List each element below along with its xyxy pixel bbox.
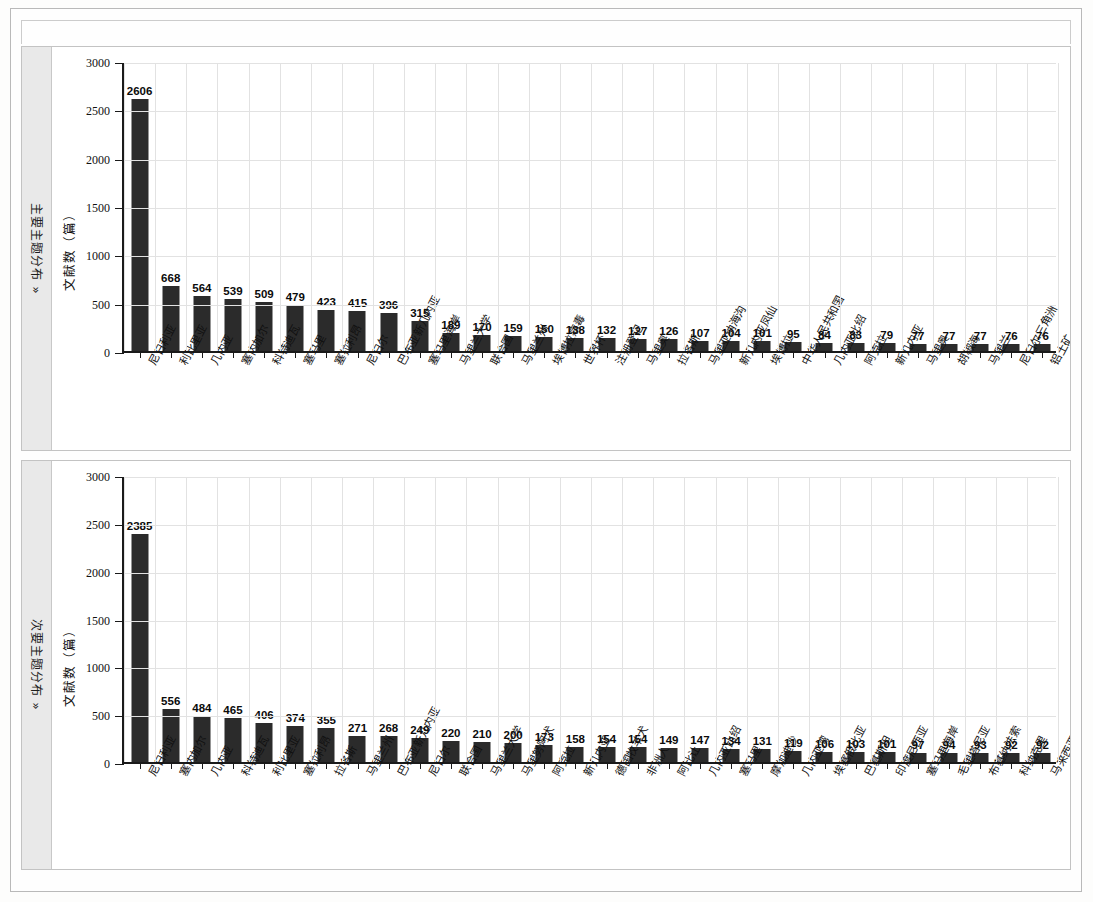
- x-axis-tick: [420, 762, 421, 769]
- x-axis-tick: [295, 351, 296, 358]
- x-axis-tick: [264, 351, 265, 358]
- gridline-vertical: [871, 477, 872, 762]
- x-axis-tick: [607, 762, 608, 769]
- gridline-horizontal: [124, 525, 1056, 526]
- bar-slot: 406: [249, 477, 280, 762]
- x-axis-tick: [140, 762, 141, 769]
- bar-slot: 355: [311, 477, 342, 762]
- gridline-vertical: [747, 477, 748, 762]
- gridline-vertical: [124, 477, 125, 762]
- x-axis-tick: [544, 351, 545, 358]
- bar-slot: 106: [809, 477, 840, 762]
- bar-value-label: 668: [161, 272, 180, 284]
- panel-primary-topic-distribution: 主要主题分布 » 文献数（篇） 260666856453950947942341…: [21, 46, 1071, 451]
- y-axis-tick: [115, 621, 124, 622]
- gridline-vertical: [529, 477, 530, 762]
- x-axis-tick: [233, 351, 234, 358]
- x-axis-tick: [1042, 762, 1043, 769]
- gridline-vertical: [280, 477, 281, 762]
- bar-slot: 668: [155, 63, 186, 351]
- y-axis-tick: [115, 353, 124, 354]
- gridline-vertical: [466, 63, 467, 351]
- gridline-vertical: [622, 477, 623, 762]
- gridline-vertical: [653, 63, 654, 351]
- gridline-vertical: [902, 63, 903, 351]
- gridline-vertical: [716, 63, 717, 351]
- bar-slot: 189: [435, 63, 466, 351]
- x-axis-tick: [825, 351, 826, 358]
- gridline-vertical: [1027, 477, 1028, 762]
- bar-slot: 465: [217, 477, 248, 762]
- gridline-vertical: [373, 63, 374, 351]
- bar-slot: 77: [933, 63, 964, 351]
- x-axis-tick: [575, 351, 576, 358]
- x-axis-tick: [326, 351, 327, 358]
- bar-slot: 271: [342, 477, 373, 762]
- gridline-vertical: [124, 63, 125, 351]
- gridline-vertical: [902, 477, 903, 762]
- gridline-vertical: [155, 477, 156, 762]
- bar-slot: 103: [840, 477, 871, 762]
- x-axis-tick: [856, 351, 857, 358]
- x-axis-tick: [856, 762, 857, 769]
- y-axis-tick-label: 3000: [86, 470, 110, 485]
- gridline-vertical: [684, 477, 685, 762]
- x-axis-tick: [793, 351, 794, 358]
- x-axis-tick: [887, 762, 888, 769]
- bar-value-label: 479: [286, 291, 305, 303]
- bar-slot: 76: [996, 63, 1027, 351]
- gridline-vertical: [996, 63, 997, 351]
- x-axis-labels-primary: 尼日利亚利比里亚几内亚塞内加尔科特迪瓦塞马里塞拉利昂尼日尔巴布亚新几内亚塞马里海…: [124, 351, 1056, 451]
- y-axis-tick-label: 0: [104, 346, 110, 361]
- x-axis-labels-secondary: 尼日利亚塞内加尔几内亚科特迪瓦利比里亚塞拉利昂拉各斯马里兰州巴布亚新几内亚尼日尔…: [124, 762, 1056, 870]
- x-axis-tick: [295, 762, 296, 769]
- x-axis-tick: [171, 351, 172, 358]
- gridline-vertical: [622, 63, 623, 351]
- bar-slot: 2385: [124, 477, 155, 762]
- bar[interactable]: [131, 99, 148, 351]
- gridline-vertical: [217, 477, 218, 762]
- x-axis-tick: [700, 351, 701, 358]
- x-axis-tick: [482, 762, 483, 769]
- bar-value-label: 271: [348, 722, 367, 734]
- gridline-vertical: [933, 63, 934, 351]
- x-axis-tick: [140, 351, 141, 358]
- side-tab-label-primary: 主要主题分布 »: [28, 203, 45, 294]
- bar-value-label: 465: [223, 704, 242, 716]
- gridline-vertical: [404, 63, 405, 351]
- bar-slot: 374: [280, 477, 311, 762]
- chart-primary: 文献数（篇） 260666856453950947942341539631518…: [52, 47, 1070, 450]
- side-tab-secondary[interactable]: 次要主题分布 »: [22, 461, 52, 869]
- x-axis-tick: [949, 351, 950, 358]
- bar-value-label: 158: [566, 733, 585, 745]
- gridline-vertical: [466, 477, 467, 762]
- x-axis-tick: [420, 351, 421, 358]
- x-axis-tick: [731, 762, 732, 769]
- bar-value-label: 556: [161, 695, 180, 707]
- bar-slot: 93: [965, 477, 996, 762]
- gridline-vertical: [591, 477, 592, 762]
- side-tab-primary[interactable]: 主要主题分布 »: [22, 47, 52, 450]
- bar-value-label: 423: [317, 296, 336, 308]
- y-axis-tick: [115, 256, 124, 257]
- gridline-horizontal: [124, 111, 1056, 112]
- y-axis-tick-label: 1500: [86, 201, 110, 216]
- x-axis-tick: [918, 762, 919, 769]
- x-axis-tick: [513, 762, 514, 769]
- bar-slot: 396: [373, 63, 404, 351]
- x-axis-tick: [793, 762, 794, 769]
- x-axis-tick: [202, 762, 203, 769]
- y-axis-tick-label: 500: [92, 709, 110, 724]
- x-axis-tick: [762, 351, 763, 358]
- y-axis-tick-label: 0: [104, 757, 110, 772]
- bar-slot: 119: [778, 477, 809, 762]
- bar[interactable]: [131, 534, 148, 762]
- gridline-vertical: [560, 477, 561, 762]
- y-axis-tick-label: 2000: [86, 565, 110, 580]
- bar-slot: 127: [622, 63, 653, 351]
- bar-slot: 77: [965, 63, 996, 351]
- x-axis-tick: [887, 351, 888, 358]
- bar-slot: 556: [155, 477, 186, 762]
- axes-secondary: 2385556484465406374355271268249220210200…: [122, 477, 1056, 869]
- bar-slot: 92: [1027, 477, 1058, 762]
